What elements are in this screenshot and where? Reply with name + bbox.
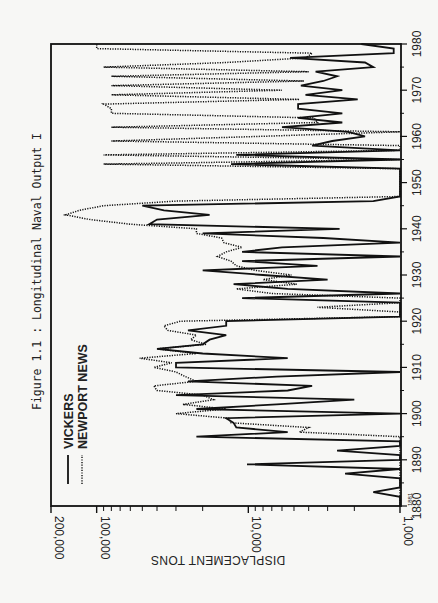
- x-tick-label: 1950: [410, 169, 424, 196]
- x-tick-label: 1970: [410, 77, 424, 104]
- x-tick-label: 1890: [410, 446, 424, 473]
- x-tick-label: 1920: [410, 308, 424, 335]
- x-tick-label: 1930: [410, 261, 424, 288]
- y-axis-title: DISPLACEMENT TONS: [151, 553, 285, 567]
- legend-label-newport-news: NEWPORT NEWS: [76, 344, 90, 449]
- x-tick-label: 1900: [410, 400, 424, 427]
- y-tick-label: 100,000: [98, 516, 112, 560]
- x-tick-label: 1940: [410, 215, 424, 242]
- legend-label-vickers: VICKERS: [62, 393, 76, 449]
- series-layer: [66, 44, 400, 506]
- legend: VICKERS NEWPORT NEWS: [62, 344, 90, 484]
- x-axis: 1880189019001910192019301940195019601970…: [400, 30, 424, 519]
- y-tick-label: 10,000: [249, 516, 263, 553]
- x-tick-label: 1960: [410, 123, 424, 150]
- x-tick-label: 1910: [410, 354, 424, 381]
- chart: Figure 1.1 : Longitudinal Naval Output I…: [0, 0, 438, 603]
- chart-title: Figure 1.1 : Longitudinal Naval Output I: [30, 133, 44, 410]
- y-tick-label: 200,000: [52, 516, 66, 560]
- x-start-annotation: 1881: [407, 492, 413, 506]
- y-tick-label: 1,000: [401, 516, 415, 546]
- y-axis: 1,00010,000100,000200,000: [51, 506, 415, 560]
- x-tick-label: 1980: [410, 30, 424, 57]
- series-line-vickers: [142, 44, 400, 506]
